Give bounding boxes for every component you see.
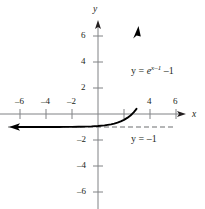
y-tick-label-pos6: 6 — [81, 31, 86, 40]
y-tick-label-pos2: 2 — [81, 83, 86, 92]
x-tick-label-neg6: –6 — [15, 97, 24, 106]
graph-figure: y x –6 –4 –2 4 6 6 4 2 –2 –4 –6 y = ex–1… — [0, 0, 205, 209]
x-tick-label-pos6: 6 — [173, 97, 178, 106]
x-tick-label-neg2: –2 — [67, 97, 76, 106]
asymptote-label: y = –1 — [131, 134, 157, 144]
y-axis-label: y — [93, 5, 97, 15]
x-axis-label: x — [192, 110, 196, 120]
y-tick-label-neg4: –4 — [77, 161, 86, 170]
curve-equation-prefix: y = — [131, 65, 147, 76]
curve-exponential — [16, 109, 137, 127]
curve-top-arrow-icon — [133, 26, 141, 39]
curve-equation-suffix: –1 — [161, 65, 174, 76]
x-tick-label-pos4: 4 — [147, 97, 152, 106]
y-tick-label-neg2: –2 — [77, 135, 86, 144]
curve-equation-exponent: x–1 — [151, 64, 161, 72]
y-tick-label-pos4: 4 — [81, 57, 86, 66]
y-tick-label-neg6: –6 — [77, 187, 86, 196]
x-tick-label-neg4: –4 — [41, 97, 50, 106]
curve-equation-label: y = ex–1 –1 — [131, 66, 174, 76]
